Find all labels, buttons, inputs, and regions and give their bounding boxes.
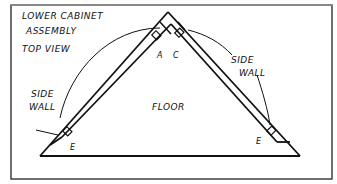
label-side-wall-left-2: WALL xyxy=(29,102,56,112)
label-side-wall-left-1: SIDE xyxy=(31,89,54,99)
label-side-wall-right-1: SIDE xyxy=(231,55,254,65)
label-floor: FLOOR xyxy=(152,102,185,112)
right-side-wall xyxy=(168,12,300,156)
leader-lines xyxy=(36,28,270,135)
label-e-right: E xyxy=(256,137,262,146)
title-line-1: LOWER CABINET xyxy=(22,11,104,21)
label-e-left: E xyxy=(70,143,76,152)
label-a: A xyxy=(156,51,163,60)
title-line-2: ASSEMBLY xyxy=(25,26,78,36)
corner-brackets xyxy=(63,28,276,136)
label-side-wall-right-2: WALL xyxy=(239,68,266,78)
cabinet-assembly-diagram: LOWER CABINET ASSEMBLY TOP VIEW SIDE WAL… xyxy=(0,0,337,184)
label-c: C xyxy=(173,51,179,60)
subtitle-top-view: TOP VIEW xyxy=(22,44,71,54)
